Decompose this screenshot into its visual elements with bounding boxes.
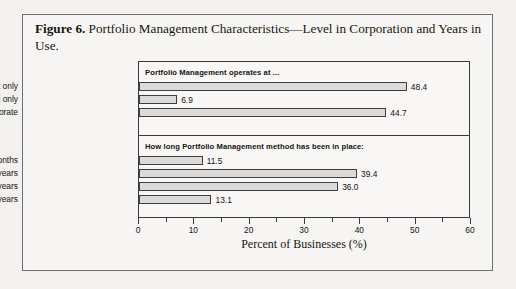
bar-value-label: 11.5 [207,157,223,166]
category-label: 6 months–2 years [0,169,18,178]
bar-value-label: 48.4 [411,83,427,92]
bar [139,82,407,91]
chart-panel-years-in-use: How long Portfolio Management method has… [138,135,470,218]
x-axis: Percent of Businesses (%) 0102030405060 [138,218,470,258]
bar [139,156,203,165]
bar-value-label: 13.1 [215,196,231,205]
x-axis-minor-tick [166,218,167,222]
bar-value-label: 6.9 [181,96,193,105]
x-axis-tick-label: 30 [299,225,308,235]
x-axis-tick [193,218,194,224]
category-label: Both BU and Corporate [0,108,18,117]
panel-title-top: Portfolio Management operates at ... [145,68,279,77]
x-axis-tick-label: 50 [410,225,419,235]
x-axis-minor-tick [221,218,222,222]
x-axis-tick-label: 10 [189,225,198,235]
figure-number: Figure 6. [35,21,85,36]
figure-caption-text: Portfolio Management Characteristics—Lev… [35,21,481,53]
bar [139,169,357,178]
category-label: 2–5 years [0,182,18,191]
category-label: less than 6 months [0,156,18,165]
category-label: Business Unit only [0,82,18,91]
x-axis-tick-label: 40 [355,225,364,235]
bar-value-label: 36.0 [342,183,358,192]
category-label: more than 5 years [0,195,18,204]
chart-panel-level-in-corporation: Portfolio Management operates at ... 48.… [138,61,470,135]
x-axis-tick [359,218,360,224]
x-axis-minor-tick [276,218,277,222]
bar [139,182,338,191]
x-axis-tick [138,218,139,224]
x-axis-minor-tick [387,218,388,222]
bar [139,108,386,117]
x-axis-tick [304,218,305,224]
x-axis-minor-tick [442,218,443,222]
category-label-column: Business Unit onlyCorporate level onlyBo… [0,61,18,218]
x-axis-tick-label: 0 [136,225,141,235]
bar [139,95,177,104]
x-axis-minor-tick [332,218,333,222]
x-axis-tick [470,218,471,224]
x-axis-title: Percent of Businesses (%) [138,237,470,252]
category-label: Corporate level only [0,95,18,104]
chart-plot-area: Portfolio Management operates at ... 48.… [138,61,470,218]
x-axis-tick-label: 20 [244,225,253,235]
x-axis-tick [415,218,416,224]
x-axis-tick-label: 60 [465,225,474,235]
bar-value-label: 44.7 [390,109,406,118]
bar [139,195,211,204]
figure-caption: Figure 6. Portfolio Management Character… [35,21,482,54]
x-axis-tick [249,218,250,224]
bar-value-label: 39.4 [361,170,377,179]
figure-frame: Figure 6. Portfolio Management Character… [22,14,493,271]
panel-title-bottom: How long Portfolio Management method has… [145,142,364,151]
